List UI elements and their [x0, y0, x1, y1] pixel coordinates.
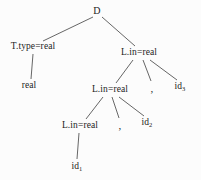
tree-node-label: T.type=real [11, 41, 56, 51]
tree-node-subscript: 1 [79, 165, 82, 172]
tree-edge-ttype-to-real [31, 54, 33, 79]
tree-node-real: real [22, 81, 37, 91]
tree-node-d: D [93, 6, 100, 16]
tree-node-label: L.in=real [62, 120, 98, 130]
tree-node-label: id [175, 81, 183, 91]
tree-node-lin2: L.in=real [92, 85, 128, 95]
tree-node-label: D [93, 5, 100, 16]
tree-node-id1: id1 [72, 162, 83, 172]
tree-edge-lin2-to-lin3 [86, 97, 103, 119]
tree-node-comma2: , [119, 120, 122, 131]
tree-node-id2: id2 [142, 118, 153, 128]
tree-edge-lin2-to-id2 [119, 97, 144, 116]
tree-edge-lin1-to-comma1 [143, 60, 151, 81]
tree-node-label: L.in=real [121, 47, 157, 57]
tree-edge-lin2-to-comma2 [112, 97, 119, 118]
tree-node-label: id [142, 117, 150, 127]
tree-node-comma1: , [151, 83, 154, 94]
tree-node-subscript: 2 [149, 121, 152, 128]
tree-node-label: , [119, 119, 122, 131]
tree-edge-lin3-to-id1 [77, 133, 79, 159]
parse-tree-diagram: DT.type=realrealL.in=real,id3L.in=real,i… [0, 0, 201, 180]
tree-edge-d-to-ttype [43, 17, 93, 41]
tree-node-ttype: T.type=real [11, 42, 56, 52]
tree-edge-lin1-to-lin2 [116, 60, 133, 83]
tree-node-lin1: L.in=real [121, 48, 157, 58]
tree-node-subscript: 3 [182, 85, 185, 92]
tree-edge-d-to-lin1 [102, 17, 135, 46]
tree-node-id3: id3 [175, 82, 186, 92]
tree-node-label: id [72, 161, 80, 171]
tree-node-label: L.in=real [92, 84, 128, 94]
tree-node-label: , [151, 82, 154, 94]
tree-node-label: real [22, 80, 37, 90]
tree-node-lin3: L.in=real [62, 121, 98, 131]
tree-edge-lin1-to-id3 [150, 60, 177, 80]
